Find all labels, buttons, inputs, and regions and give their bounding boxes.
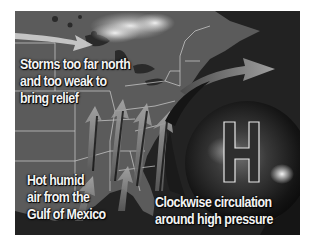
circulation-label: Clockwise circulation around high pressu… [155, 193, 273, 227]
storms-label: Storms too far north and too weak to bri… [20, 55, 130, 106]
weather-map-figure: Storms too far north and too weak to bri… [15, 11, 300, 235]
humid-air-label: Hot humid air from the Gulf of Mexico [27, 171, 106, 222]
